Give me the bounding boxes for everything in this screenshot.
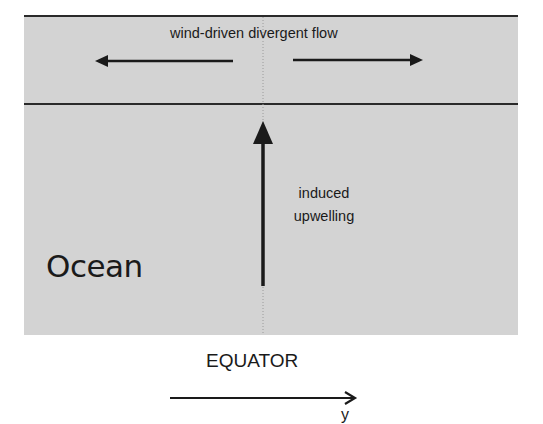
surface-flow-label: wind-driven divergent flow	[170, 25, 338, 41]
upwelling-label-line1: induced	[288, 182, 360, 205]
right-divergent-arrow-icon	[293, 54, 423, 66]
y-axis-arrow-icon	[170, 392, 355, 404]
ocean-label: Ocean	[46, 248, 143, 284]
upwelling-label: induced upwelling	[288, 182, 360, 228]
y-axis-label: y	[341, 406, 349, 424]
left-divergent-arrow-icon	[95, 55, 233, 67]
upwelling-arrow-icon	[253, 121, 273, 286]
equator-label: EQUATOR	[206, 350, 298, 372]
upwelling-label-line2: upwelling	[288, 205, 360, 228]
